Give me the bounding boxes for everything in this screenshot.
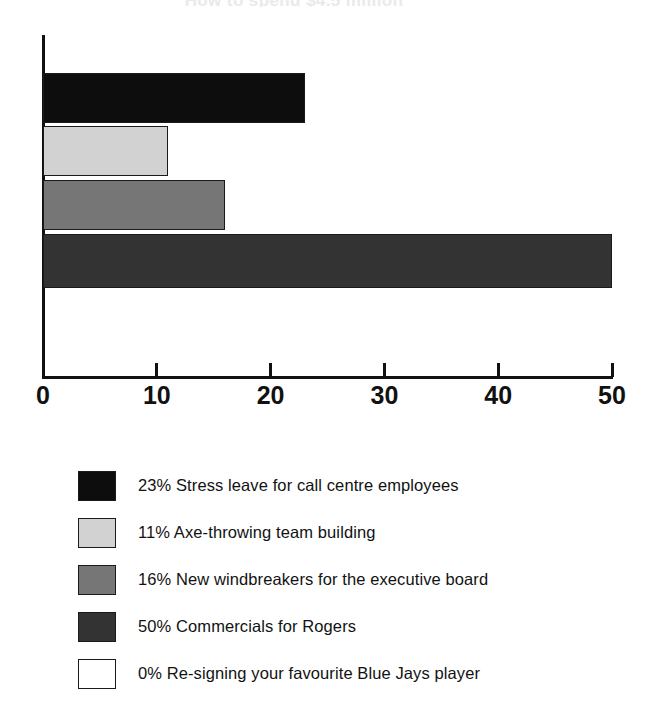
legend-swatch (78, 518, 116, 548)
x-axis-tick (269, 363, 272, 377)
x-axis-tick-label: 10 (127, 381, 187, 410)
legend-label: 23% Stress leave for call centre employe… (138, 476, 459, 495)
legend-label: 0% Re-signing your favourite Blue Jays p… (138, 664, 480, 683)
legend-item[interactable]: 50% Commercials for Rogers (78, 603, 638, 650)
x-axis-tick (611, 363, 614, 377)
legend-label: 11% Axe-throwing team building (138, 523, 376, 542)
legend-swatch (78, 565, 116, 595)
legend-label: 50% Commercials for Rogers (138, 617, 356, 636)
bar (43, 180, 225, 230)
bar (43, 126, 168, 176)
legend-swatch (78, 612, 116, 642)
x-axis-tick-label: 30 (354, 381, 414, 410)
x-axis-tick-label: 50 (582, 381, 642, 410)
legend-item[interactable]: 0% Re-signing your favourite Blue Jays p… (78, 650, 638, 697)
legend-item[interactable]: 11% Axe-throwing team building (78, 509, 638, 556)
x-axis-tick (497, 363, 500, 377)
legend-item[interactable]: 23% Stress leave for call centre employe… (78, 462, 638, 509)
bar (43, 234, 612, 288)
x-axis-tick-label: 20 (241, 381, 301, 410)
legend-item[interactable]: 16% New windbreakers for the executive b… (78, 556, 638, 603)
x-axis-tick-label: 40 (468, 381, 528, 410)
legend-label: 16% New windbreakers for the executive b… (138, 570, 488, 589)
x-axis-tick-label: 0 (13, 381, 73, 410)
x-axis-line (42, 376, 613, 379)
bar-chart-plot-area: 01020304050 (0, 0, 650, 420)
legend-swatch (78, 659, 116, 689)
legend-swatch (78, 471, 116, 501)
bar (43, 73, 305, 123)
x-axis-tick (155, 363, 158, 377)
x-axis-tick (42, 363, 45, 377)
x-axis-tick (383, 363, 386, 377)
chart-legend: 23% Stress leave for call centre employe… (78, 462, 638, 697)
